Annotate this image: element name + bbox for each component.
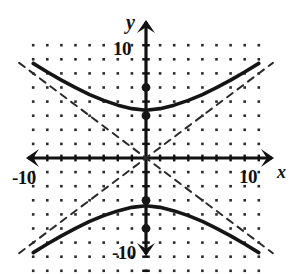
grid-dot (117, 185, 120, 188)
grid-dot (187, 171, 190, 174)
grid-dot (159, 255, 162, 258)
grid-dot (258, 100, 261, 103)
grid-dot (60, 227, 63, 230)
grid-dot (243, 100, 246, 103)
grid-dot (159, 171, 162, 174)
grid-dot (173, 185, 176, 188)
grid-dot (159, 213, 162, 216)
grid-dot (187, 129, 190, 132)
grid-dot (88, 255, 91, 258)
grid-dot (229, 171, 232, 174)
grid-dot (88, 114, 91, 117)
grid-dot (88, 143, 91, 146)
grid-dot (60, 213, 63, 216)
grid-dot (187, 185, 190, 188)
grid-dot (243, 44, 246, 47)
grid-dot (32, 114, 35, 117)
grid-dot (215, 255, 218, 258)
grid-dot (173, 227, 176, 230)
grid-dot (74, 114, 77, 117)
grid-dot (117, 129, 120, 132)
grid-dot (32, 100, 35, 103)
grid-dot (229, 143, 232, 146)
grid-dot (88, 129, 91, 132)
grid-dot (74, 72, 77, 75)
grid-dot (258, 58, 261, 61)
grid-dot (60, 241, 63, 244)
grid-dot (46, 114, 49, 117)
x-axis-label: x (277, 163, 286, 181)
grid-dot (60, 100, 63, 103)
grid-dot (32, 44, 35, 47)
grid-dot (215, 241, 218, 244)
grid-dot (159, 72, 162, 75)
grid-dot (60, 270, 63, 273)
grid-dot (60, 143, 63, 146)
grid-dot (215, 129, 218, 132)
grid-dot (32, 270, 35, 273)
grid-dot (60, 86, 63, 89)
point-marker-vertex-lower (142, 196, 151, 205)
grid-dot (74, 100, 77, 103)
grid-dot (131, 72, 134, 75)
grid-dot (187, 72, 190, 75)
grid-dot (201, 270, 204, 273)
grid-dot (201, 143, 204, 146)
grid-dot (102, 72, 105, 75)
grid-dot (131, 100, 134, 103)
grid-dot (258, 143, 261, 146)
grid-dot (32, 143, 35, 146)
grid-dot (74, 255, 77, 258)
grid-dot (131, 171, 134, 174)
grid-dot (187, 44, 190, 47)
grid-dot (117, 199, 120, 202)
grid-dot (102, 199, 105, 202)
grid-dot (187, 58, 190, 61)
grid-dot (215, 199, 218, 202)
grid-dot (229, 100, 232, 103)
grid-dot (74, 185, 77, 188)
grid-dot (74, 213, 77, 216)
grid-dot (201, 58, 204, 61)
y-axis-tick-label-negative: -10 (112, 243, 136, 262)
grid-dot (88, 44, 91, 47)
grid-dot (46, 227, 49, 230)
grid-dot (88, 86, 91, 89)
grid-dot (243, 143, 246, 146)
grid-dot (229, 86, 232, 89)
grid-dot (88, 213, 91, 216)
grid-dot (201, 227, 204, 230)
grid-dot (187, 199, 190, 202)
grid-dot (201, 255, 204, 258)
grid-dot (201, 241, 204, 244)
grid-dot (32, 58, 35, 61)
grid-dot (74, 199, 77, 202)
grid-dot (74, 270, 77, 273)
grid-dot (215, 100, 218, 103)
x-axis-tick-label-positive: 10 (239, 167, 257, 186)
grid-dot (102, 255, 105, 258)
hyperbola-graph-figure: y x 10 -10 -10 10 (0, 0, 299, 274)
grid-dot (159, 86, 162, 89)
grid-dot (74, 129, 77, 132)
grid-dot (131, 143, 134, 146)
grid-dot (215, 58, 218, 61)
grid-dot (131, 185, 134, 188)
grid-dot (173, 199, 176, 202)
grid-dot (102, 227, 105, 230)
grid-dot (187, 227, 190, 230)
grid-dot (243, 227, 246, 230)
grid-dot (117, 270, 120, 273)
grid-dot (215, 213, 218, 216)
grid-dot (117, 72, 120, 75)
grid-dot (215, 114, 218, 117)
grid-dot (102, 185, 105, 188)
grid-dot (117, 143, 120, 146)
grid-dot (243, 58, 246, 61)
grid-dot (131, 270, 134, 273)
grid-dot (117, 171, 120, 174)
grid-dot (258, 270, 261, 273)
grid-dot (229, 129, 232, 132)
grid-dot (60, 44, 63, 47)
grid-dot (102, 270, 105, 273)
